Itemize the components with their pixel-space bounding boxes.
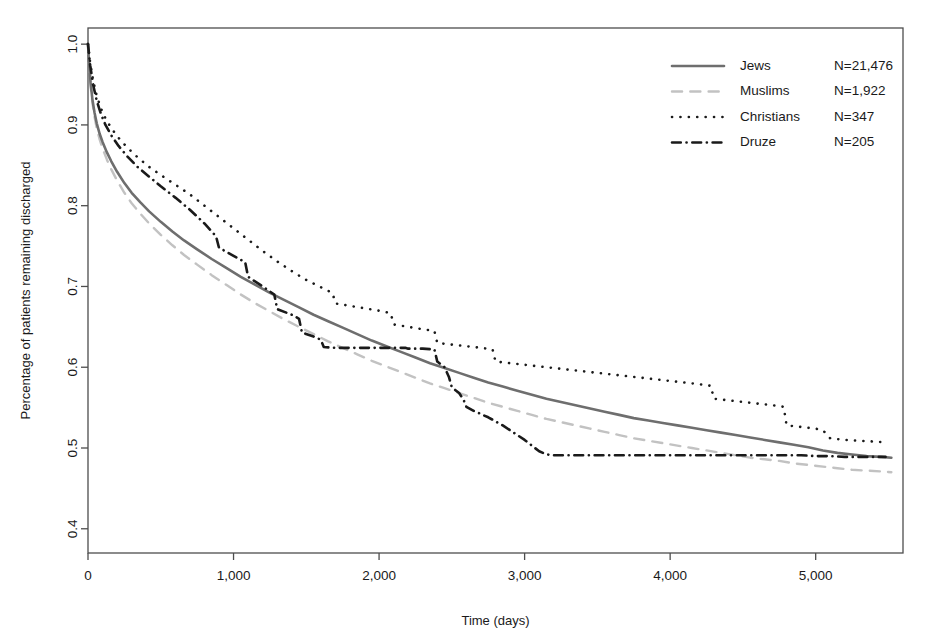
y-tick-label: 0.5 — [65, 439, 80, 458]
chart-container: JewsN=21,476MuslimsN=1,922ChristiansN=34… — [0, 0, 926, 634]
survival-curve-chart: JewsN=21,476MuslimsN=1,922ChristiansN=34… — [0, 0, 926, 634]
x-tick-label: 2,000 — [362, 568, 396, 583]
legend-count-druze: N=205 — [834, 134, 874, 149]
x-axis-title: Time (days) — [461, 613, 529, 628]
y-tick-label: 0.4 — [65, 519, 80, 538]
x-tick-label: 5,000 — [799, 568, 833, 583]
x-tick-label: 0 — [84, 568, 92, 583]
legend-count-muslims: N=1,922 — [834, 83, 885, 98]
y-tick-label: 1.0 — [65, 35, 80, 54]
legend-label-christians: Christians — [740, 109, 800, 124]
legend-count-christians: N=347 — [834, 109, 874, 124]
legend-label-druze: Druze — [740, 134, 776, 149]
x-tick-label: 1,000 — [217, 568, 251, 583]
legend-label-muslims: Muslims — [740, 83, 790, 98]
legend-label-jews: Jews — [740, 58, 771, 73]
y-tick-label: 0.6 — [65, 358, 80, 377]
x-tick-label: 3,000 — [508, 568, 542, 583]
y-tick-label: 0.9 — [65, 116, 80, 135]
legend-count-jews: N=21,476 — [834, 58, 893, 73]
y-tick-label: 0.7 — [65, 277, 80, 296]
y-tick-label: 0.8 — [65, 196, 80, 215]
x-tick-label: 4,000 — [653, 568, 687, 583]
y-axis-title: Percentage of patients remaining dischar… — [18, 162, 33, 420]
